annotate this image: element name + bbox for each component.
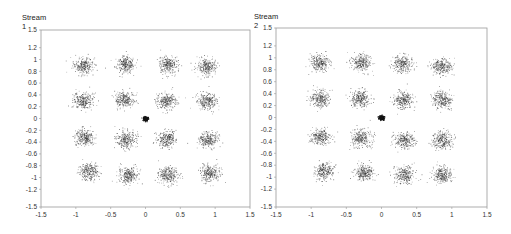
x-tick-label: -1 [308, 211, 314, 218]
y-tick-label: -1.2 [26, 186, 38, 193]
y-tick-label: -1.5 [26, 203, 38, 210]
y-tick-label: 1 [33, 56, 37, 63]
data-points [66, 50, 226, 190]
x-tick-label: 0.5 [176, 211, 185, 218]
constellation-plots: 1.51.210.80.60.40.20-0.2-0.4-0.6-0.8-1-1… [0, 0, 511, 234]
x-tick-label: 0 [380, 211, 384, 218]
y-tick-label: 0.6 [263, 78, 272, 85]
y-tick-label: -0.8 [261, 161, 273, 168]
y-tick-label: 0 [33, 115, 37, 122]
x-tick-label: -1.5 [35, 211, 47, 218]
x-tick-label: -0.5 [105, 211, 117, 218]
x-tick-label: 1.5 [482, 211, 491, 218]
x-tick-label: 0.5 [412, 211, 421, 218]
y-tick-label: 0 [268, 114, 272, 121]
x-tick-label: 1 [450, 211, 454, 218]
y-tick-label: -1.2 [261, 185, 273, 192]
y-tick-label: -0.4 [261, 138, 273, 145]
y-tick-label: 0.6 [28, 79, 37, 86]
y-tick-label: -0.6 [26, 150, 38, 157]
y-tick-label: -0.4 [26, 138, 38, 145]
y-tick-label: 0.2 [28, 103, 37, 110]
y-tick-label: 1 [268, 54, 272, 61]
y-tick-label: -0.2 [26, 127, 38, 134]
y-tick-label: 1.2 [263, 42, 272, 49]
y-tick-label: 0.4 [263, 90, 272, 97]
y-tick-label: -1 [266, 173, 272, 180]
y-tick-label: 0.8 [28, 68, 37, 75]
y-tick-label: 0.4 [28, 91, 37, 98]
x-tick-label: 0 [144, 211, 148, 218]
scatter-plot-2: 1.51.210.80.60.40.20-0.2-0.4-0.6-0.8-1-1… [261, 24, 492, 218]
y-tick-label: -0.6 [261, 150, 273, 157]
x-tick-label: -1.5 [270, 211, 282, 218]
x-tick-label: -1 [73, 211, 79, 218]
y-tick-label: 1.2 [28, 44, 37, 51]
y-tick-label: -0.2 [261, 126, 273, 133]
y-tick-label: 1.5 [28, 26, 37, 33]
scatter-plot-1: 1.51.210.80.60.40.20-0.2-0.4-0.6-0.8-1-1… [26, 26, 255, 218]
x-tick-label: -0.5 [341, 211, 353, 218]
x-tick-label: 1 [213, 211, 217, 218]
center-point [379, 115, 384, 119]
y-tick-label: -1 [31, 174, 37, 181]
x-tick-label: 1.5 [245, 211, 254, 218]
y-tick-label: 1.5 [263, 24, 272, 31]
y-tick-label: 0.2 [263, 102, 272, 109]
data-points [306, 51, 457, 187]
y-tick-label: 0.8 [263, 66, 272, 73]
y-tick-label: -0.8 [26, 162, 38, 169]
y-tick-label: -1.5 [261, 203, 273, 210]
center-point [143, 116, 148, 120]
